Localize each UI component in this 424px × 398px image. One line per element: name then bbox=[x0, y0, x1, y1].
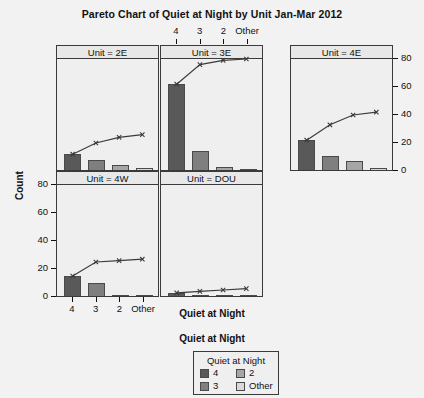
plot-area-4w bbox=[57, 185, 158, 297]
plot-area-2e bbox=[57, 59, 158, 171]
left-axis-tick-label: 0 bbox=[0, 290, 48, 301]
bottom-axis-tick-mark bbox=[143, 297, 144, 302]
legend-title: Quiet at Night bbox=[0, 333, 424, 344]
bottom-axis-tick-mark bbox=[72, 297, 73, 302]
right-axis-tick-mark bbox=[393, 170, 398, 171]
cumulative-line-2e bbox=[57, 59, 158, 171]
right-axis-tick-label: 0 bbox=[401, 164, 406, 175]
panel-strip-label-4w: Unit = 4W bbox=[57, 172, 158, 185]
right-axis-tick-label: 60 bbox=[401, 80, 412, 91]
chart-canvas: Pareto Chart of Quiet at Night by Unit J… bbox=[0, 0, 424, 398]
plot-area-dou bbox=[161, 185, 262, 297]
top-axis-tick-label: 2 bbox=[221, 25, 226, 36]
left-axis-tick-mark bbox=[51, 296, 56, 297]
legend-item-label: 3 bbox=[213, 381, 218, 391]
bottom-axis-tick-mark bbox=[119, 297, 120, 302]
top-axis-tick-mark bbox=[247, 39, 248, 44]
bottom-axis-tick-mark bbox=[96, 297, 97, 302]
legend-swatch-icon bbox=[200, 382, 209, 391]
panel-2e: Unit = 2E bbox=[56, 45, 159, 171]
legend-item-label: Other bbox=[249, 381, 273, 391]
legend-item-label: 2 bbox=[249, 368, 254, 378]
panel-strip-label-3e: Unit = 3E bbox=[161, 46, 262, 59]
cumulative-line-3e bbox=[161, 59, 262, 171]
top-axis-tick-label: Other bbox=[235, 25, 259, 36]
panel-strip-label-dou: Unit = DOU bbox=[161, 172, 262, 185]
chart-title: Pareto Chart of Quiet at Night by Unit J… bbox=[0, 8, 424, 20]
x-axis-label: Quiet at Night bbox=[0, 308, 424, 319]
panel-strip-label-2e: Unit = 2E bbox=[57, 46, 158, 59]
left-axis-tick-mark bbox=[51, 184, 56, 185]
cumulative-line-4e bbox=[291, 59, 392, 171]
panel-4e: Unit = 4E bbox=[290, 45, 393, 171]
left-axis-tick-mark bbox=[51, 212, 56, 213]
top-axis-tick-label: 3 bbox=[197, 25, 202, 36]
right-axis-tick-mark bbox=[393, 142, 398, 143]
plot-area-3e bbox=[161, 59, 262, 171]
top-axis-tick-mark bbox=[176, 39, 177, 44]
left-axis-tick-mark bbox=[51, 240, 56, 241]
right-axis-tick-mark bbox=[393, 58, 398, 59]
top-axis-tick-label: 4 bbox=[173, 25, 178, 36]
top-axis-tick-mark bbox=[223, 39, 224, 44]
right-axis-tick-label: 80 bbox=[401, 52, 412, 63]
cumulative-line-4w bbox=[57, 185, 158, 297]
cumulative-line-dou bbox=[161, 185, 262, 297]
legend-header: Quiet at Night bbox=[194, 355, 278, 366]
right-axis-tick-mark bbox=[393, 114, 398, 115]
panel-dou: Unit = DOU bbox=[160, 171, 263, 297]
panel-4w: Unit = 4W bbox=[56, 171, 159, 297]
legend-item[interactable]: 4 bbox=[200, 368, 218, 378]
legend-item-label: 4 bbox=[213, 368, 218, 378]
legend-item[interactable]: Other bbox=[236, 381, 273, 391]
legend-item[interactable]: 2 bbox=[236, 368, 254, 378]
right-axis-tick-label: 20 bbox=[401, 136, 412, 147]
plot-area-4e bbox=[291, 59, 392, 171]
right-axis-tick-label: 40 bbox=[401, 108, 412, 119]
y-axis-label: Count bbox=[14, 171, 25, 200]
legend-swatch-icon bbox=[200, 369, 209, 378]
right-axis-tick-mark bbox=[393, 86, 398, 87]
legend-swatch-icon bbox=[236, 369, 245, 378]
legend: Quiet at Night 432Other bbox=[193, 351, 279, 395]
panel-strip-label-4e: Unit = 4E bbox=[291, 46, 392, 59]
legend-item[interactable]: 3 bbox=[200, 381, 218, 391]
left-axis-tick-label: 60 bbox=[0, 206, 48, 217]
panel-3e: Unit = 3E bbox=[160, 45, 263, 171]
top-axis-tick-mark bbox=[200, 39, 201, 44]
left-axis-tick-mark bbox=[51, 268, 56, 269]
legend-swatch-icon bbox=[236, 382, 245, 391]
left-axis-tick-label: 20 bbox=[0, 262, 48, 273]
left-axis-tick-label: 40 bbox=[0, 234, 48, 245]
